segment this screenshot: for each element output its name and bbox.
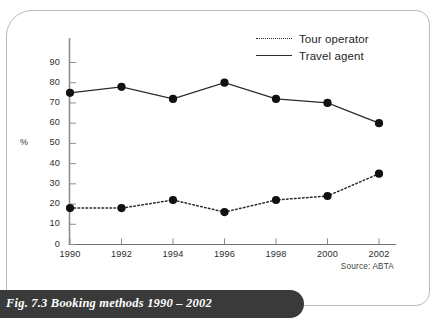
x-tick-label: 1994 xyxy=(153,249,193,259)
x-tick-label: 1998 xyxy=(256,249,296,259)
data-point-marker xyxy=(272,95,280,103)
x-tick-label: 2002 xyxy=(359,249,399,259)
y-tick-label: 40 xyxy=(38,158,60,168)
data-point-marker xyxy=(375,170,383,178)
y-tick-label: 90 xyxy=(38,57,60,67)
y-tick-label: 0 xyxy=(38,239,60,249)
data-series-layer xyxy=(66,79,383,217)
data-point-marker xyxy=(66,89,74,97)
legend-label-tour-operator: Tour operator xyxy=(292,33,369,45)
x-tick-label: 1996 xyxy=(205,249,245,259)
data-point-marker xyxy=(272,196,280,204)
data-point-marker xyxy=(117,83,125,91)
legend-item-tour-operator[interactable]: Tour operator xyxy=(256,30,426,47)
dotted-line-swatch-icon xyxy=(256,34,292,44)
data-point-marker xyxy=(66,204,74,212)
x-axis-ticks xyxy=(70,239,379,245)
x-tick-label: 1992 xyxy=(102,249,142,259)
data-point-marker xyxy=(220,79,228,87)
data-point-marker xyxy=(220,208,228,216)
y-tick-label: 20 xyxy=(38,198,60,208)
figure-caption-bar: Fig. 7.3 Booking methods 1990 – 2002 xyxy=(0,290,304,318)
y-tick-label: 10 xyxy=(38,218,60,228)
data-point-marker xyxy=(323,192,331,200)
figure-caption-text: Fig. 7.3 Booking methods 1990 – 2002 xyxy=(6,296,212,311)
y-axis-title: % xyxy=(20,137,28,147)
solid-line-swatch-icon xyxy=(256,51,292,61)
legend-item-travel-agent[interactable]: Travel agent xyxy=(256,47,426,64)
legend-label-travel-agent: Travel agent xyxy=(292,50,364,62)
data-point-marker xyxy=(117,204,125,212)
y-tick-label: 30 xyxy=(38,178,60,188)
data-point-marker xyxy=(169,196,177,204)
series-line-travel-agent xyxy=(70,83,379,124)
y-tick-label: 80 xyxy=(38,77,60,87)
y-tick-label: 70 xyxy=(38,97,60,107)
source-note: Source: ABTA xyxy=(341,262,394,271)
chart-legend: Tour operator Travel agent xyxy=(256,30,426,64)
data-point-marker xyxy=(169,95,177,103)
y-tick-label: 50 xyxy=(38,137,60,147)
chart-plot-area: 0102030405060708090 19901992199419961998… xyxy=(0,0,436,290)
data-point-marker xyxy=(375,119,383,127)
x-tick-label: 1990 xyxy=(50,249,90,259)
data-point-marker xyxy=(323,99,331,107)
y-tick-label: 60 xyxy=(38,117,60,127)
series-line-tour-operator xyxy=(70,174,379,212)
x-tick-label: 2000 xyxy=(308,249,348,259)
